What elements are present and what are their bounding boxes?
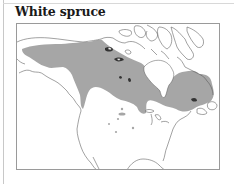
range-outlier bbox=[121, 108, 123, 110]
range-outlier bbox=[132, 127, 134, 129]
range-outlier bbox=[117, 118, 119, 120]
page-frame-left bbox=[3, 0, 4, 184]
map-title: White spruce bbox=[15, 4, 106, 19]
great-lakes bbox=[145, 110, 169, 126]
range-outlier bbox=[108, 123, 110, 125]
range-outlier bbox=[119, 112, 126, 115]
range-map bbox=[16, 23, 220, 170]
range-outlier bbox=[115, 131, 117, 133]
range-map-graphic bbox=[17, 24, 219, 169]
range-area bbox=[22, 40, 214, 114]
